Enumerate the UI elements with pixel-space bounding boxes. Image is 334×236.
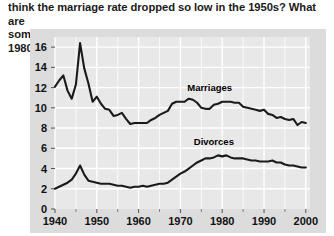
y-tick-label-0: 0 [41, 203, 47, 215]
x-tick-label-0: 1940 [43, 215, 67, 227]
chart-panel: 1940195019601970198019902000 02468101214… [30, 29, 326, 233]
y-tick-label-7: 14 [35, 61, 48, 73]
x-axis-ticks [55, 209, 306, 213]
series-label-divorces: Divorces [194, 136, 234, 147]
x-tick-label-5: 1990 [252, 215, 276, 227]
chart-page: think the marriage rate dropped so low i… [0, 0, 334, 236]
y-tick-label-1: 2 [41, 183, 47, 195]
y-tick-label-5: 10 [35, 102, 47, 114]
x-tick-label-4: 1980 [210, 215, 234, 227]
y-tick-label-3: 6 [41, 142, 47, 154]
x-tick-label-6: 2000 [294, 215, 318, 227]
y-tick-label-4: 8 [41, 122, 47, 134]
x-axis-tick-labels: 1940195019601970198019902000 [43, 215, 318, 227]
y-tick-label-2: 4 [41, 163, 48, 175]
x-tick-label-2: 1960 [126, 215, 150, 227]
series-label-marriages: Marriages [187, 82, 232, 93]
x-tick-label-3: 1970 [168, 215, 192, 227]
plot-background [55, 37, 310, 209]
line-chart: 1940195019601970198019902000 02468101214… [30, 29, 326, 233]
y-tick-label-8: 16 [35, 41, 47, 53]
plot-background-group [55, 37, 310, 209]
y-tick-label-6: 12 [35, 82, 47, 94]
y-axis-tick-labels: 0246810121416 [35, 41, 48, 215]
x-tick-label-1: 1950 [85, 215, 109, 227]
